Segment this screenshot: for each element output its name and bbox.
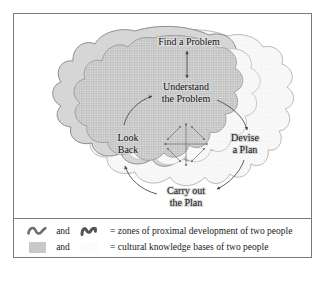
node-label-lookback-line-1: Look (117, 132, 138, 143)
node-label-find-text: Find a Problem (158, 36, 220, 47)
node-label-understand-line-1: Understand (163, 81, 209, 92)
node-label-carryout-line-2: the Plan (170, 197, 203, 208)
legend-conjunction-cultural: and (51, 242, 75, 252)
legend-row-zpd: and = zones of proximal development of t… (23, 223, 311, 239)
figure-frame: Find a Problem Find a Problem Understand… (13, 13, 312, 258)
light-dotted-swatch-icon (81, 242, 98, 253)
legend-area: and = zones of proximal development of t… (14, 219, 311, 257)
diagram-svg: Find a Problem Find a Problem Understand… (14, 14, 311, 218)
legend-text-zpd: = zones of proximal development of two p… (110, 226, 292, 236)
node-label-carryout: Carry out Carry out the Plan the Plan (167, 185, 205, 208)
node-label-understand-line-2: the Problem (162, 93, 211, 104)
zpd-left-symbol-cell (23, 225, 51, 237)
legend-row-cultural: and = cultural knowledge bases of two pe… (23, 239, 311, 255)
node-label-find: Find a Problem Find a Problem (158, 36, 220, 47)
gray-filled-swatch-icon (29, 242, 46, 253)
node-label-lookback-line-2: Back (118, 144, 139, 155)
legend-conjunction-zpd: and (51, 226, 75, 236)
cultural-right-symbol-cell (75, 242, 103, 253)
diagram-area: Find a Problem Find a Problem Understand… (14, 14, 311, 218)
figure-root: Find a Problem Find a Problem Understand… (0, 0, 325, 283)
node-label-devise: Devise Devise a Plan a Plan (231, 132, 259, 155)
node-label-understand: Understand Understand the Problem the Pr… (162, 81, 211, 104)
cultural-left-symbol-cell (23, 242, 51, 253)
node-label-lookback: Look Look Back Back (117, 132, 138, 155)
dark-wavy-line-icon (27, 225, 47, 237)
node-label-devise-line-2: a Plan (233, 144, 258, 155)
node-label-devise-line-1: Devise (231, 132, 259, 143)
dark-zigzag-line-icon (79, 225, 99, 237)
zpd-right-symbol-cell (75, 225, 103, 237)
legend-text-cultural: = cultural knowledge bases of two people (110, 242, 268, 252)
node-label-carryout-line-1: Carry out (167, 185, 205, 196)
